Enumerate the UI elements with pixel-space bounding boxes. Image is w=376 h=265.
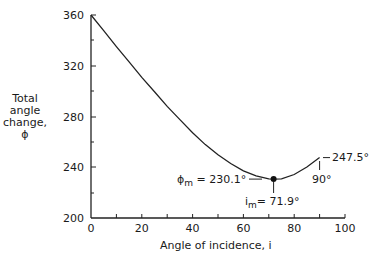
end-value-annotation: 247.5° — [332, 151, 369, 164]
y-tick-240: 240 — [63, 161, 84, 174]
minimum-point-marker — [271, 176, 277, 182]
axes — [91, 15, 345, 218]
y-tick-360: 360 — [63, 9, 84, 22]
x-tick-20: 20 — [135, 222, 149, 235]
deviation-curve — [91, 15, 280, 199]
x-tick-0: 0 — [88, 222, 95, 235]
i-m-annotation: im= 71.9° — [245, 195, 300, 210]
y-tick-280: 280 — [63, 111, 84, 124]
deviation-curve-line — [91, 15, 320, 179]
phi-m-annotation: ϕm = 230.1° — [177, 173, 246, 188]
y-tick-320: 320 — [63, 60, 84, 73]
y-tick-labels: 360 320 280 240 200 — [63, 9, 84, 225]
x-tick-80: 80 — [287, 222, 301, 235]
y-tick-200: 200 — [63, 212, 84, 225]
x-tick-labels: 0 20 40 60 80 100 — [88, 222, 356, 235]
x-tick-40: 40 — [186, 222, 200, 235]
x-tick-100: 100 — [335, 222, 356, 235]
y-ticks — [91, 15, 96, 193]
x-tick-60: 60 — [236, 222, 250, 235]
chart-plot: 360 320 280 240 200 0 20 40 60 80 100 ϕm… — [0, 0, 376, 265]
end-angle-annotation: 90° — [312, 173, 332, 186]
